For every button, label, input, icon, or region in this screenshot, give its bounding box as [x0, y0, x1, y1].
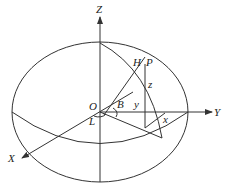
z-axis-label: Z	[96, 3, 103, 15]
x-segment	[145, 113, 165, 128]
ellipsoid-diagram: Z Y X O H P B L z y x	[0, 0, 228, 186]
coord-z-label: z	[147, 78, 153, 90]
radial-line	[100, 112, 162, 138]
x-axis-label: X	[7, 152, 16, 164]
coord-y-label: y	[133, 98, 139, 110]
latitude-b-label: B	[117, 98, 124, 110]
longitude-l-label: L	[88, 115, 95, 127]
y-axis-label: Y	[214, 106, 222, 118]
point-h-label: H	[132, 56, 142, 68]
origin-label: O	[89, 100, 97, 112]
point-p-label: P	[145, 56, 153, 68]
coord-x-label: x	[162, 113, 168, 125]
